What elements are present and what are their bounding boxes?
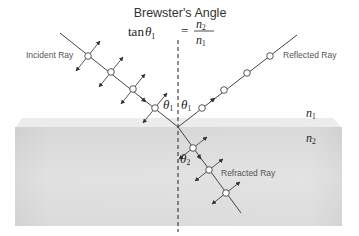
medium-1-label: n1 [306, 106, 316, 121]
polarization-dot [199, 105, 206, 112]
reflected-ray [178, 35, 297, 127]
diagram-title: Brewster's Angle [134, 6, 227, 20]
incident-ray-label: Incident Ray [26, 50, 74, 60]
polarization-dot [267, 53, 274, 60]
polarization-dot [223, 190, 230, 197]
angle-incident-label: θ1 [163, 97, 173, 113]
refracted-ray-label: Refracted Ray [221, 168, 276, 178]
polarization-dot [130, 86, 137, 93]
svg-text:=: = [181, 23, 188, 38]
polarization-dot [206, 167, 213, 174]
svg-text:n1: n1 [196, 33, 206, 48]
polarization-dot [244, 70, 251, 77]
reflected-ray-label: Reflected Ray [283, 50, 337, 60]
incident-ray [60, 33, 178, 127]
polarization-dot [108, 69, 115, 76]
angle-reflected-label: θ1 [181, 97, 191, 113]
polarization-dot [190, 145, 197, 152]
brewster-equation: tanθ1 = n2 n1 [128, 17, 214, 48]
brewster-angle-diagram: Brewster's Angle tanθ1 = n2 n1 Incident … [0, 0, 359, 236]
polarization-dot [152, 105, 159, 112]
svg-text:tanθ1: tanθ1 [128, 24, 155, 41]
polarization-dot [85, 53, 92, 60]
polarization-dot [221, 87, 228, 94]
